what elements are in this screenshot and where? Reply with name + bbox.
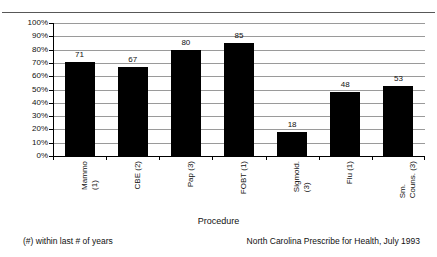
category-label-line: Pap (3) (186, 161, 195, 187)
bar[interactable] (330, 92, 360, 156)
y-axis-tick-mark (49, 90, 54, 91)
x-axis-ticks (53, 156, 425, 160)
y-axis-tick-mark (49, 36, 54, 37)
bar-slot: 71 (53, 23, 106, 156)
source-text: North Carolina Prescribe for Health, Jul… (247, 236, 420, 246)
x-axis-tick-mark (212, 156, 213, 160)
category-label-line: Sigmoid. (292, 161, 301, 192)
x-axis-tick-mark (424, 156, 425, 160)
x-axis-category-label: Flu (1) (319, 161, 372, 219)
bar-slot: 18 (266, 23, 319, 156)
y-axis-tick-label: 80% (4, 46, 48, 54)
y-axis-tick-mark (49, 116, 54, 117)
bar-value-label: 18 (288, 120, 297, 129)
chart-page: 100%90%80%70%60%50%40%30%20%10%0% 716780… (0, 0, 437, 257)
bar-value-label: 71 (75, 50, 84, 59)
x-axis-category-label: CBE (2) (106, 161, 159, 219)
x-axis-tick-mark (106, 156, 107, 160)
x-axis-tick-mark (319, 156, 320, 160)
x-axis-category-label: Mammo(1) (53, 161, 106, 219)
y-axis-tick-mark (49, 63, 54, 64)
y-axis-tick-label: 30% (4, 112, 48, 120)
bar-value-label: 48 (341, 80, 350, 89)
category-label-line: (1) (90, 161, 100, 190)
x-axis-category-label: Sigmoid.(3) (266, 161, 319, 219)
bar-slot: 67 (106, 23, 159, 156)
y-axis-tick-label: 50% (4, 86, 48, 94)
bar-slot: 80 (159, 23, 212, 156)
bar-value-label: 53 (394, 74, 403, 83)
x-axis-tick-mark (266, 156, 267, 160)
y-axis-tick-mark (49, 143, 54, 144)
top-divider-rule (2, 12, 435, 13)
y-axis-tick-label: 40% (4, 99, 48, 107)
y-axis-tick-label: 60% (4, 72, 48, 80)
bar[interactable] (171, 50, 201, 156)
category-label-line: Flu (1) (345, 161, 354, 184)
x-axis-category-label: FOBT (1) (212, 161, 265, 219)
y-axis-tick-label: 100% (4, 19, 48, 27)
x-axis-category-label: Sm.Couns. (3) (372, 161, 425, 219)
y-axis-tick-mark (49, 129, 54, 130)
y-axis-tick-mark (49, 156, 54, 157)
bar[interactable] (65, 62, 95, 156)
bar-slot: 48 (319, 23, 372, 156)
bar-value-label: 67 (128, 55, 137, 64)
category-label-line: (3) (302, 161, 312, 192)
y-axis-tick-label: 10% (4, 139, 48, 147)
category-label-line: Sm. (398, 184, 407, 198)
bar[interactable] (277, 132, 307, 156)
y-axis-tick-labels: 100%90%80%70%60%50%40%30%20%10%0% (0, 23, 48, 157)
x-axis-tick-mark (159, 156, 160, 160)
bar[interactable] (224, 43, 254, 156)
bar-value-label: 80 (181, 38, 190, 47)
y-axis-tick-mark (49, 103, 54, 104)
y-axis-tick-label: 20% (4, 125, 48, 133)
y-axis-tick-mark (49, 50, 54, 51)
bar-slot: 53 (372, 23, 425, 156)
x-axis-title: Procedure (0, 216, 437, 227)
y-axis-tick-mark (49, 76, 54, 77)
y-axis-tick-label: 0% (4, 152, 48, 160)
category-label-line: Couns. (3) (408, 161, 418, 198)
bar[interactable] (118, 67, 148, 156)
category-label-line: CBE (2) (133, 161, 142, 189)
category-label-line: FOBT (1) (239, 161, 248, 194)
category-label-line: Mammo (80, 161, 89, 190)
bar-value-label: 85 (235, 31, 244, 40)
x-axis-category-label: Pap (3) (159, 161, 212, 219)
x-axis-tick-mark (372, 156, 373, 160)
y-axis-tick-label: 70% (4, 59, 48, 67)
y-axis-tick-mark (49, 23, 54, 24)
footnote-text: (#) within last # of years (23, 236, 113, 246)
bar-series: 71678085184853 (53, 23, 425, 156)
y-axis-tick-label: 90% (4, 32, 48, 40)
bar-slot: 85 (212, 23, 265, 156)
bar[interactable] (383, 86, 413, 156)
x-axis-category-labels: Mammo(1)CBE (2)Pap (3)FOBT (1)Sigmoid.(3… (53, 161, 425, 221)
